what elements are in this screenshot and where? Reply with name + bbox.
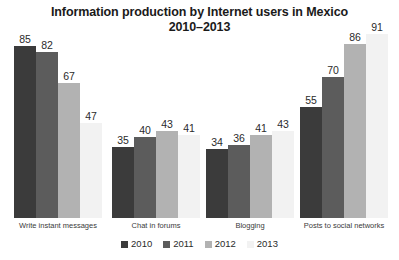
bar-item[interactable]: 91 bbox=[366, 34, 388, 218]
bar-item[interactable]: 41 bbox=[178, 135, 200, 218]
bar-item[interactable]: 67 bbox=[58, 83, 80, 218]
bar-value-label: 86 bbox=[349, 31, 361, 43]
bar-rect bbox=[178, 135, 200, 218]
bar-rect bbox=[250, 135, 272, 218]
bar-rect bbox=[344, 44, 366, 218]
legend-item[interactable]: 2012 bbox=[205, 239, 236, 249]
bar-item[interactable]: 36 bbox=[228, 145, 250, 218]
category-label: Write instant messages bbox=[14, 221, 102, 230]
bar-item[interactable]: 35 bbox=[112, 147, 134, 218]
bar-rect bbox=[322, 77, 344, 218]
legend-swatch-icon bbox=[163, 241, 170, 248]
bar-item[interactable]: 70 bbox=[322, 77, 344, 218]
bar-rect bbox=[228, 145, 250, 218]
bar-value-label: 91 bbox=[371, 21, 383, 33]
legend-label: 2010 bbox=[131, 239, 152, 249]
legend-swatch-icon bbox=[247, 241, 254, 248]
bar-value-label: 55 bbox=[305, 94, 317, 106]
legend-swatch-icon bbox=[121, 241, 128, 248]
legend-swatch-icon bbox=[205, 241, 212, 248]
bar-item[interactable]: 82 bbox=[36, 52, 58, 218]
bar-group: 34364143 bbox=[206, 0, 294, 218]
bar-value-label: 40 bbox=[139, 124, 151, 136]
legend-label: 2011 bbox=[173, 239, 193, 249]
bar-group: 55708691 bbox=[300, 0, 388, 218]
bar-value-label: 34 bbox=[211, 136, 223, 148]
bar-value-label: 41 bbox=[183, 122, 195, 134]
legend-item[interactable]: 2010 bbox=[121, 239, 152, 249]
bar-value-label: 85 bbox=[19, 33, 31, 45]
bar-rect bbox=[366, 34, 388, 218]
bar-value-label: 82 bbox=[41, 39, 53, 51]
bar-item[interactable]: 85 bbox=[14, 46, 36, 218]
legend-item[interactable]: 2013 bbox=[247, 239, 278, 249]
category-label: Chat in forums bbox=[112, 221, 200, 230]
legend-label: 2012 bbox=[215, 239, 236, 249]
bar-value-label: 36 bbox=[233, 132, 245, 144]
bar-value-label: 35 bbox=[117, 134, 129, 146]
bar-rect bbox=[14, 46, 36, 218]
bar-item[interactable]: 41 bbox=[250, 135, 272, 218]
bar-value-label: 70 bbox=[327, 64, 339, 76]
bar-value-label: 41 bbox=[255, 122, 267, 134]
bar-rect bbox=[58, 83, 80, 218]
bar-item[interactable]: 40 bbox=[134, 137, 156, 218]
bar-group: 35404341 bbox=[112, 0, 200, 218]
bar-value-label: 43 bbox=[161, 118, 173, 130]
bar-rect bbox=[156, 131, 178, 218]
bar-rect bbox=[272, 131, 294, 218]
bar-item[interactable]: 34 bbox=[206, 149, 228, 218]
plot-area: 85826747354043413436414355708691 bbox=[0, 0, 399, 218]
bar-item[interactable]: 55 bbox=[300, 107, 322, 218]
category-label: Blogging bbox=[206, 221, 294, 230]
bar-rect bbox=[36, 52, 58, 218]
bar-value-label: 47 bbox=[85, 110, 97, 122]
bar-value-label: 43 bbox=[277, 118, 289, 130]
bar-item[interactable]: 43 bbox=[156, 131, 178, 218]
category-label: Posts to social networks bbox=[300, 221, 388, 230]
chart-legend: 2010201120122013 bbox=[0, 239, 399, 249]
bar-chart: Information production by Internet users… bbox=[0, 0, 399, 260]
bar-value-label: 67 bbox=[63, 70, 75, 82]
bar-rect bbox=[134, 137, 156, 218]
bar-rect bbox=[112, 147, 134, 218]
bar-item[interactable]: 47 bbox=[80, 123, 102, 218]
bar-item[interactable]: 86 bbox=[344, 44, 366, 218]
legend-item[interactable]: 2011 bbox=[163, 239, 193, 249]
bar-rect bbox=[206, 149, 228, 218]
legend-label: 2013 bbox=[257, 239, 278, 249]
bar-group: 85826747 bbox=[14, 0, 102, 218]
bar-rect bbox=[300, 107, 322, 218]
bar-item[interactable]: 43 bbox=[272, 131, 294, 218]
bar-rect bbox=[80, 123, 102, 218]
